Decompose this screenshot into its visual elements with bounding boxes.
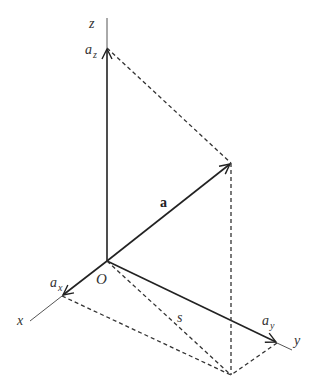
y-axis-label: y bbox=[292, 333, 301, 348]
origin-label: O bbox=[96, 271, 107, 287]
svg-text:y: y bbox=[269, 320, 275, 331]
z-axis-label: z bbox=[88, 16, 95, 31]
x-axis-line bbox=[30, 296, 62, 321]
svg-text:z: z bbox=[92, 49, 97, 60]
svg-text:a: a bbox=[85, 42, 92, 57]
svg-text:a: a bbox=[262, 313, 269, 328]
x-axis-label: x bbox=[16, 313, 24, 328]
y-axis-line bbox=[277, 343, 292, 350]
dashed-az-to-a bbox=[107, 48, 231, 163]
svg-text:a: a bbox=[50, 275, 57, 290]
dashed-ay-to-ground bbox=[231, 343, 277, 375]
component-y-arrow bbox=[107, 261, 276, 342]
component-y-label: a y bbox=[262, 313, 275, 331]
component-z-label: a z bbox=[85, 42, 97, 60]
svg-text:x: x bbox=[57, 282, 63, 293]
vector-a-label: a bbox=[160, 195, 167, 210]
dashed-s-projection bbox=[107, 261, 231, 375]
component-x-label: a x bbox=[50, 275, 63, 293]
vector-diagram: z x y O a s a z a x a y bbox=[0, 0, 318, 392]
vector-a-arrow bbox=[107, 164, 230, 261]
projection-s-label: s bbox=[177, 310, 183, 325]
